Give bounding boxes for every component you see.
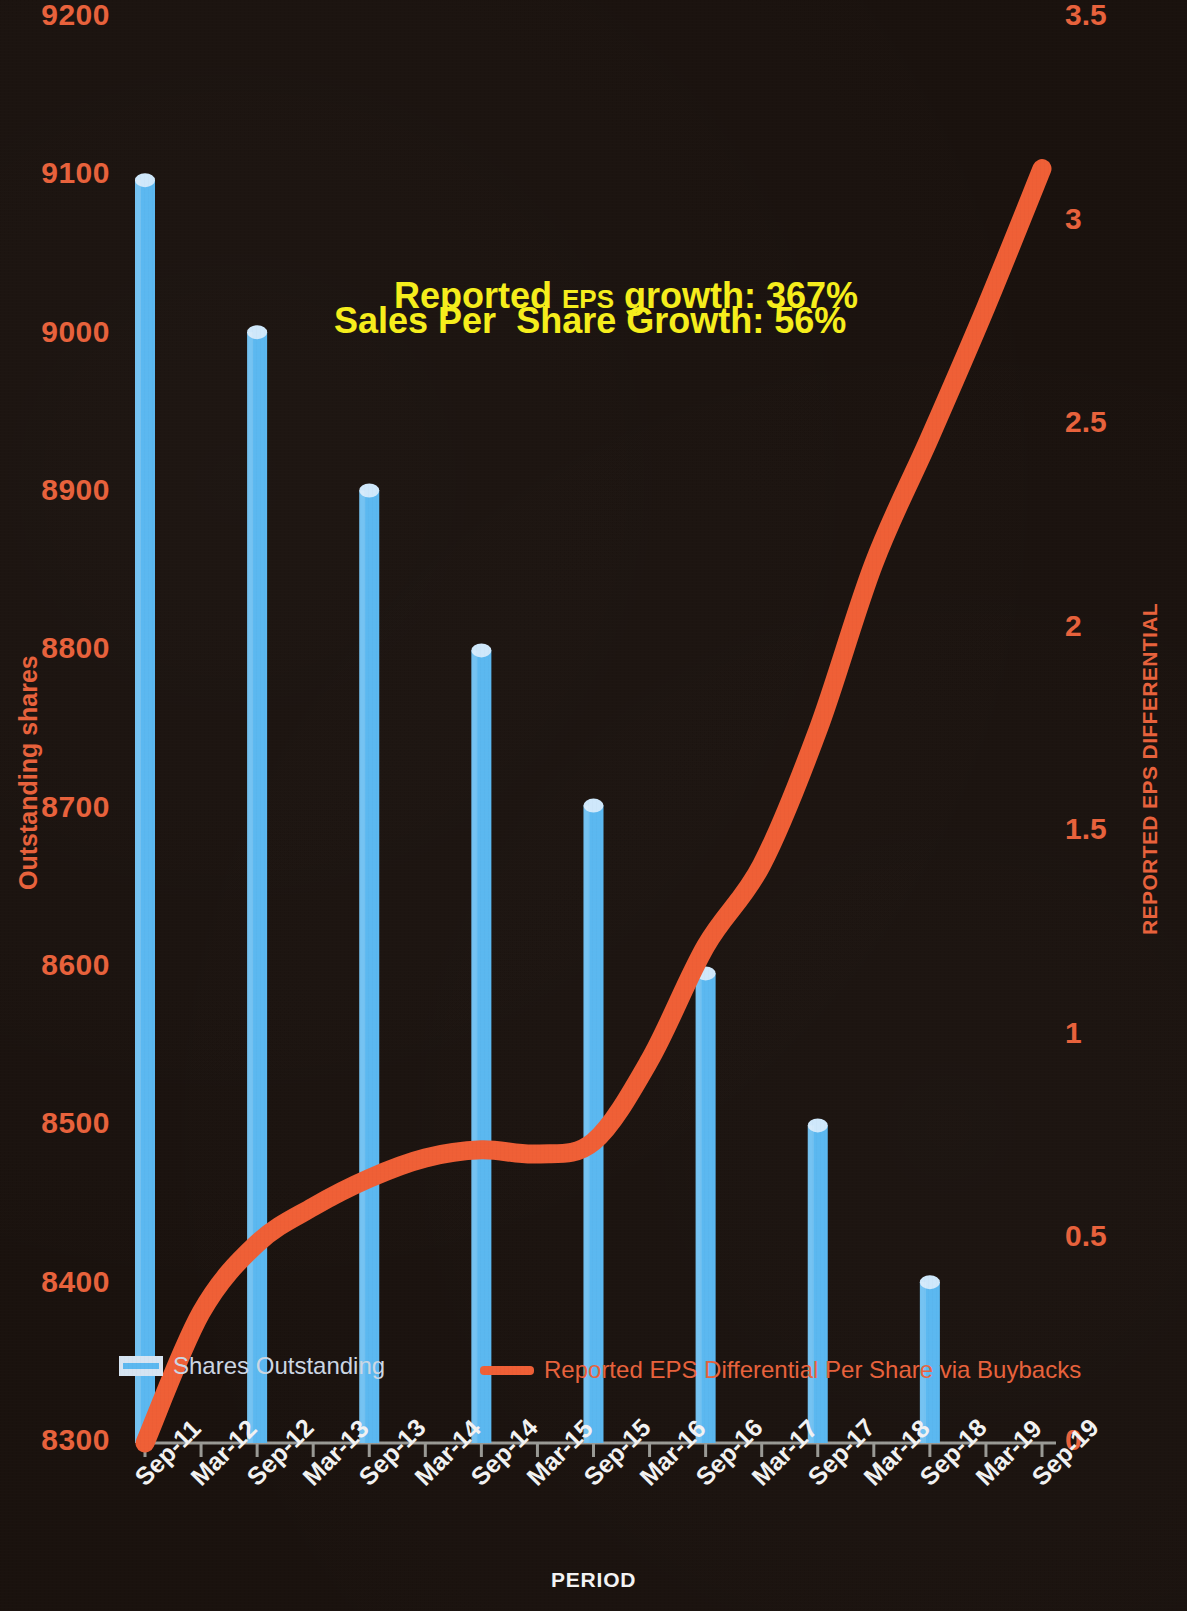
bar [471,643,491,1443]
right-axis-tick: 1 [1065,1016,1155,1050]
legend-item-shares-outstanding[interactable]: Shares Outstanding [119,1352,385,1380]
x-axis-title: PERIOD [551,1568,636,1592]
right-axis-tick: 2.5 [1065,405,1155,439]
legend-item-eps-differential[interactable]: Reported EPS Differential Per Share via … [480,1356,1081,1384]
left-axis-title: Outstanding shares [14,655,43,890]
bar [359,484,379,1444]
left-axis-tick: 8300 [0,1423,110,1457]
legend-bar-swatch-icon [119,1356,163,1376]
annotation-sales-growth: Sales Per Share Growth: 56% [334,300,846,342]
left-axis-tick: 8400 [0,1265,110,1299]
bar [135,173,155,1443]
left-axis-tick: 8900 [0,473,110,507]
legend-label-eps-differential: Reported EPS Differential Per Share via … [544,1356,1081,1384]
left-axis-tick: 9100 [0,156,110,190]
left-axis-tick: 9000 [0,315,110,349]
right-axis-tick: 3.5 [1065,0,1155,32]
legend-label-shares-outstanding: Shares Outstanding [173,1352,385,1380]
legend-line-swatch-icon [480,1366,534,1375]
right-axis-tick: 0.5 [1065,1219,1155,1253]
right-axis-tick: 3 [1065,202,1155,236]
left-axis-tick: 9200 [0,0,110,32]
bar [808,1118,828,1443]
plot-area: 8300840085008600870088008900900091009200… [0,0,1187,1611]
chart-page: 8300840085008600870088008900900091009200… [0,0,1187,1611]
left-axis-tick: 8500 [0,1106,110,1140]
bar [247,325,267,1443]
left-axis-tick: 8600 [0,948,110,982]
right-axis-title: REPORTED EPS DIFFERENTIAL [1138,603,1162,935]
